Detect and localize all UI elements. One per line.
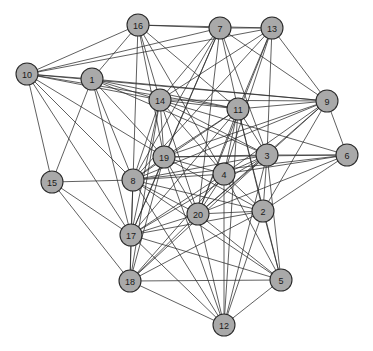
graph-node-circle[interactable]	[120, 224, 142, 246]
graph-edge	[52, 182, 131, 235]
graph-node[interactable]: 13	[261, 17, 283, 39]
graph-node-circle[interactable]	[149, 89, 171, 111]
graph-node-circle[interactable]	[16, 63, 38, 85]
graph-node[interactable]: 8	[122, 169, 144, 191]
graph-edge	[133, 180, 224, 325]
graph-node-circle[interactable]	[213, 163, 235, 185]
graph-node[interactable]: 1	[81, 68, 103, 90]
graph-node-circle[interactable]	[261, 17, 283, 39]
graph-edge	[27, 74, 131, 235]
graph-node[interactable]: 17	[120, 224, 142, 246]
graph-edge	[272, 28, 327, 101]
graph-node-circle[interactable]	[213, 314, 235, 336]
edge-layer	[27, 25, 347, 325]
graph-edge	[131, 157, 164, 235]
graph-edge	[27, 28, 220, 74]
graph-edge	[52, 182, 130, 281]
graph-node[interactable]: 6	[336, 144, 358, 166]
graph-node-circle[interactable]	[81, 68, 103, 90]
graph-node[interactable]: 10	[16, 63, 38, 85]
graph-edge	[27, 74, 52, 182]
graph-edge	[131, 100, 160, 235]
graph-edge	[267, 28, 272, 155]
graph-node-circle[interactable]	[41, 171, 63, 193]
graph-edge	[238, 101, 327, 109]
graph-node[interactable]: 12	[213, 314, 235, 336]
graph-node[interactable]: 7	[209, 17, 231, 39]
graph-node[interactable]: 16	[127, 14, 149, 36]
graph-edge	[131, 235, 224, 325]
graph-edge	[27, 25, 138, 74]
graph-edge	[92, 79, 131, 235]
graph-node[interactable]: 5	[270, 269, 292, 291]
graph-node-circle[interactable]	[119, 270, 141, 292]
graph-edge	[160, 28, 220, 100]
graph-node[interactable]: 18	[119, 270, 141, 292]
graph-edge	[52, 79, 92, 182]
graph-node-circle[interactable]	[153, 146, 175, 168]
node-layer: 1234567891011121314151617181920	[16, 14, 358, 336]
graph-edge	[198, 214, 224, 325]
graph-node-circle[interactable]	[256, 144, 278, 166]
graph-node-circle[interactable]	[127, 14, 149, 36]
graph-node-circle[interactable]	[270, 269, 292, 291]
graph-edge	[198, 214, 281, 280]
graph-node-circle[interactable]	[122, 169, 144, 191]
graph-node[interactable]: 14	[149, 89, 171, 111]
graph-node[interactable]: 19	[153, 146, 175, 168]
graph-node[interactable]: 9	[316, 90, 338, 112]
graph-node[interactable]: 15	[41, 171, 63, 193]
graph-node-circle[interactable]	[316, 90, 338, 112]
graph-node[interactable]: 11	[227, 98, 249, 120]
graph-node-circle[interactable]	[252, 200, 274, 222]
network-graph-container: 1234567891011121314151617181920	[0, 0, 373, 351]
graph-node[interactable]: 3	[256, 144, 278, 166]
graph-node-circle[interactable]	[209, 17, 231, 39]
graph-edge	[130, 280, 281, 281]
graph-node-circle[interactable]	[336, 144, 358, 166]
graph-edge	[224, 155, 347, 174]
graph-node[interactable]: 2	[252, 200, 274, 222]
graph-node[interactable]: 4	[213, 163, 235, 185]
graph-node-circle[interactable]	[187, 203, 209, 225]
graph-edge	[52, 180, 133, 182]
network-graph-svg: 1234567891011121314151617181920	[0, 0, 373, 351]
graph-node-circle[interactable]	[227, 98, 249, 120]
graph-node[interactable]: 20	[187, 203, 209, 225]
